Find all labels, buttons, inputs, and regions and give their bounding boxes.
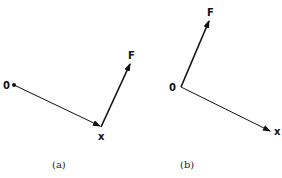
caption-b: (b) <box>180 159 194 170</box>
panel-a: 0 x F (a) <box>3 50 135 170</box>
force-vector-b <box>181 21 209 87</box>
force-vector-a <box>101 64 130 127</box>
position-vector-b <box>181 87 270 131</box>
force-label-b: F <box>207 7 214 18</box>
origin-label-b: 0 <box>169 82 176 93</box>
origin-label-a: 0 <box>3 80 10 91</box>
caption-a: (a) <box>52 159 66 170</box>
vector-diagram: 0 x F (a) 0 x F (b) <box>0 0 282 178</box>
position-vector-a <box>14 85 100 126</box>
force-label-a: F <box>128 50 135 61</box>
x-label-b: x <box>274 126 281 137</box>
panel-b: 0 x F (b) <box>169 7 281 170</box>
x-label-a: x <box>98 131 105 142</box>
